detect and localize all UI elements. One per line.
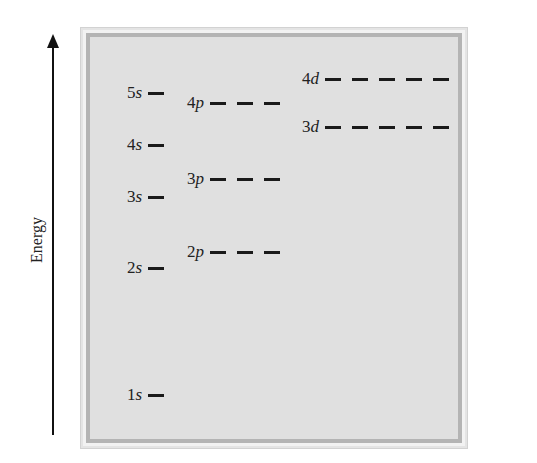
orbital-dash [352, 126, 368, 129]
level-3s: 3s [127, 187, 164, 207]
orbital-dash [379, 126, 395, 129]
orbital-dash [148, 267, 164, 270]
orbital-dash [406, 78, 422, 81]
principal-number: 4 [302, 69, 311, 88]
orbital-dash [237, 102, 253, 105]
subshell-letter: d [311, 69, 320, 88]
subshell-letter: s [136, 135, 143, 154]
principal-number: 3 [187, 169, 196, 188]
orbital-dash [325, 78, 341, 81]
orbital-dash [237, 251, 253, 254]
orbital-dash [264, 102, 280, 105]
axis-line [52, 44, 54, 435]
orbital-dash [433, 126, 449, 129]
level-1s: 1s [127, 385, 164, 405]
level-3p: 3p [187, 169, 280, 189]
principal-number: 3 [302, 117, 311, 136]
subshell-letter: s [136, 83, 143, 102]
level-2s: 2s [127, 258, 164, 278]
subshell-letter: d [311, 117, 320, 136]
principal-number: 1 [127, 385, 136, 404]
subshell-letter: s [136, 385, 143, 404]
orbital-dash [148, 196, 164, 199]
level-label: 4p [187, 93, 204, 113]
principal-number: 4 [127, 135, 136, 154]
orbital-dash [148, 92, 164, 95]
orbital-dash [210, 102, 226, 105]
subshell-letter: p [196, 242, 205, 261]
orbital-dash [264, 178, 280, 181]
level-label: 3s [127, 187, 142, 207]
orbital-dash [148, 144, 164, 147]
principal-number: 2 [127, 258, 136, 277]
subshell-letter: p [196, 93, 205, 112]
level-label: 4s [127, 135, 142, 155]
subshell-letter: p [196, 169, 205, 188]
level-label: 4d [302, 69, 319, 89]
level-label: 3d [302, 117, 319, 137]
orbital-dash [406, 126, 422, 129]
orbital-dash [379, 78, 395, 81]
principal-number: 2 [187, 242, 196, 261]
principal-number: 4 [187, 93, 196, 112]
level-2p: 2p [187, 242, 280, 262]
principal-number: 5 [127, 83, 136, 102]
orbital-dash [148, 394, 164, 397]
level-4s: 4s [127, 135, 164, 155]
orbital-dash [237, 178, 253, 181]
level-label: 3p [187, 169, 204, 189]
level-label: 2s [127, 258, 142, 278]
orbital-dash [210, 178, 226, 181]
level-4d: 4d [302, 69, 449, 89]
orbital-dash [352, 78, 368, 81]
level-label: 5s [127, 83, 142, 103]
orbital-dash [210, 251, 226, 254]
orbital-dash [264, 251, 280, 254]
level-4p: 4p [187, 93, 280, 113]
level-label: 1s [127, 385, 142, 405]
orbital-dash [325, 126, 341, 129]
subshell-letter: s [136, 258, 143, 277]
orbital-dash [433, 78, 449, 81]
level-3d: 3d [302, 117, 449, 137]
principal-number: 3 [127, 187, 136, 206]
subshell-letter: s [136, 187, 143, 206]
axis-label: Energy [28, 217, 46, 263]
level-label: 2p [187, 242, 204, 262]
level-5s: 5s [127, 83, 164, 103]
